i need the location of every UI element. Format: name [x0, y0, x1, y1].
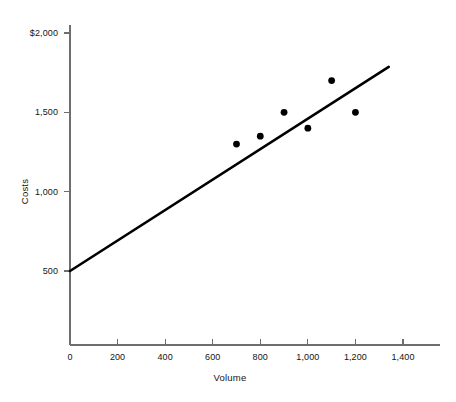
x-tick-label: 200 [93, 352, 143, 362]
axis-group [70, 25, 440, 345]
data-point [257, 133, 264, 140]
x-tick-label: 1,000 [283, 352, 333, 362]
data-point [233, 141, 240, 148]
x-tick-label: 1,400 [378, 352, 428, 362]
data-point [328, 77, 335, 84]
y-tick-label: $2,000 [0, 28, 58, 38]
trend-line-path [70, 67, 389, 271]
cost-volume-scatter-chart: 5001,0001,500$2,000 02004006008001,0001,… [0, 0, 456, 402]
x-axis-title: Volume [195, 372, 265, 383]
x-axis-ticks [118, 339, 403, 345]
x-tick-label: 600 [188, 352, 238, 362]
data-point [304, 125, 311, 132]
x-tick-label: 800 [235, 352, 285, 362]
regression-line [70, 67, 389, 271]
chart-canvas [0, 0, 456, 402]
data-points-group [233, 77, 359, 147]
x-tick-label: 400 [140, 352, 190, 362]
y-axis-title: Costs [19, 162, 30, 222]
data-point [352, 109, 359, 116]
y-axis-ticks [64, 33, 70, 271]
data-point [281, 109, 288, 116]
y-tick-label: 500 [0, 266, 58, 276]
x-tick-label: 0 [45, 352, 95, 362]
x-tick-label: 1,200 [330, 352, 380, 362]
y-tick-label: 1,500 [0, 107, 58, 117]
